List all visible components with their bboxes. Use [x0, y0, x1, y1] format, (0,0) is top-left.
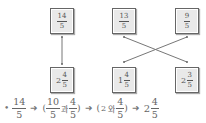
step4-mixed-number: 2 4 5 [144, 97, 159, 119]
fraction: 13 5 [119, 13, 130, 30]
fraction: 9 5 [184, 13, 190, 30]
bullet-icon: • [4, 103, 9, 113]
conversion-equation: • 14 5 ➜ ( 10 5 과 4 5 ) ➜ ( 2 와 4 5 ) ➜ … [4, 97, 159, 119]
fraction: 14 5 [57, 13, 68, 30]
bottom-box-2-4-5[interactable]: 2 4 5 [50, 67, 74, 93]
arrow-right-icon: ➜ [30, 103, 38, 113]
mixed-number: 2 3 5 [181, 72, 193, 89]
step1-fraction: 14 5 [12, 97, 26, 119]
step3-fraction: 4 5 [116, 97, 124, 119]
mixed-number: 1 4 5 [118, 72, 130, 89]
top-box-9-5[interactable]: 9 5 [175, 8, 199, 34]
top-box-13-5[interactable]: 13 5 [112, 8, 136, 34]
arrow-right-icon: ➜ [85, 103, 93, 113]
step2-fraction-a: 10 5 [46, 97, 60, 119]
arrow-right-icon: ➜ [132, 103, 140, 113]
mixed-number: 2 4 5 [56, 72, 68, 89]
top-box-14-5[interactable]: 14 5 [50, 8, 74, 34]
step2-fraction-b: 4 5 [69, 97, 77, 119]
bottom-box-1-4-5[interactable]: 1 4 5 [112, 67, 136, 93]
bottom-box-2-3-5[interactable]: 2 3 5 [175, 67, 199, 93]
